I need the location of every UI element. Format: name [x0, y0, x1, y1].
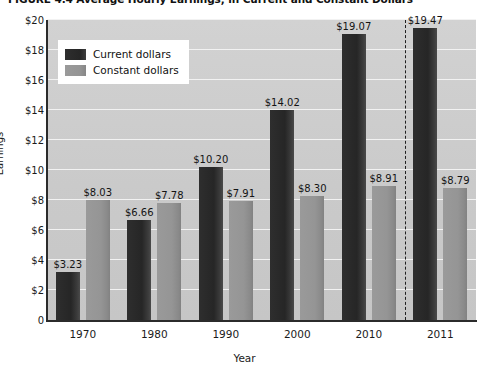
bar-value-label: $8.03: [83, 187, 112, 198]
legend-swatch-constant-icon: [65, 65, 86, 76]
x-axis-title: Year: [0, 352, 489, 364]
bar-current-1990: $10.20: [199, 167, 223, 320]
bar-value-label: $7.91: [226, 188, 255, 199]
gridline: [47, 229, 476, 230]
bar-current-2000: $14.02: [270, 110, 294, 320]
gridline: [47, 259, 476, 260]
x-axis-tick-label: 2010: [355, 328, 382, 340]
bar-constant-1970: $8.03: [86, 200, 110, 320]
bar-fill: [157, 203, 181, 320]
bar-constant-2000: $8.30: [300, 196, 324, 321]
legend-label-current: Current dollars: [93, 48, 171, 60]
bar-fill: [413, 28, 437, 320]
bar-value-label: $7.78: [155, 190, 184, 201]
y-axis-tick-label: $14: [2, 105, 44, 116]
bar-value-label: $8.79: [441, 175, 470, 186]
y-axis-tick-label: $4: [2, 255, 44, 266]
x-axis-tick-label: 1990: [212, 328, 239, 340]
gridline: [47, 169, 476, 170]
legend-entry-current: Current dollars: [65, 46, 179, 62]
y-axis-tick-label: $2: [2, 285, 44, 296]
bar-fill: [270, 110, 294, 320]
gridline: [47, 199, 476, 200]
chart-legend: Current dollars Constant dollars: [58, 40, 189, 84]
gridline: [47, 109, 476, 110]
bar-value-label: $14.02: [265, 97, 300, 108]
bar-fill: [86, 200, 110, 320]
bar-value-label: $19.07: [336, 21, 371, 32]
legend-swatch-current-icon: [65, 49, 86, 60]
legend-label-constant: Constant dollars: [93, 64, 179, 76]
era-separator-line: [405, 20, 406, 320]
gridline: [47, 139, 476, 140]
bar-value-label: $8.91: [369, 173, 398, 184]
bar-constant-2010: $8.91: [372, 186, 396, 320]
y-axis-tick-label: $18: [2, 45, 44, 56]
bar-value-label: $8.30: [298, 183, 327, 194]
bar-current-1980: $6.66: [127, 220, 151, 320]
bar-constant-1980: $7.78: [157, 203, 181, 320]
bar-fill: [372, 186, 396, 320]
bar-fill: [127, 220, 151, 320]
bar-current-2011: $19.47: [413, 28, 437, 320]
bar-fill: [300, 196, 324, 321]
x-axis-tick-label: 1980: [141, 328, 168, 340]
bar-fill: [342, 34, 366, 320]
bar-value-label: $19.47: [408, 15, 443, 26]
bar-chart: $3.23$8.03$6.66$7.78$10.20$7.91$14.02$8.…: [0, 0, 489, 375]
y-axis-line: [46, 20, 48, 321]
bar-current-2010: $19.07: [342, 34, 366, 320]
bar-value-label: $10.20: [193, 154, 228, 165]
gridline: [47, 289, 476, 290]
y-axis-tick-label: $16: [2, 75, 44, 86]
bar-constant-2011: $8.79: [443, 188, 467, 320]
y-axis-title: Earnings: [0, 132, 5, 175]
y-axis-tick-label: $12: [2, 135, 44, 146]
y-axis-tick-labels: 0$2$4$6$8$10$12$14$16$18$20: [0, 0, 44, 375]
bar-fill: [229, 201, 253, 320]
bar-current-1970: $3.23: [56, 272, 80, 320]
bar-fill: [443, 188, 467, 320]
y-axis-tick-label: $8: [2, 195, 44, 206]
y-axis-tick-label: $6: [2, 225, 44, 236]
legend-entry-constant: Constant dollars: [65, 62, 179, 78]
bar-fill: [56, 272, 80, 320]
x-axis-tick-label: 2000: [284, 328, 311, 340]
x-axis-line: [46, 320, 477, 322]
y-axis-tick-label: 0: [2, 315, 44, 326]
bar-constant-1990: $7.91: [229, 201, 253, 320]
bar-fill: [199, 167, 223, 320]
y-axis-tick-label: $20: [2, 15, 44, 26]
bar-value-label: $6.66: [125, 207, 154, 218]
y-axis-tick-label: $10: [2, 165, 44, 176]
bar-value-label: $3.23: [53, 259, 82, 270]
x-axis-tick-label: 1970: [69, 328, 96, 340]
x-axis-tick-label: 2011: [427, 328, 454, 340]
